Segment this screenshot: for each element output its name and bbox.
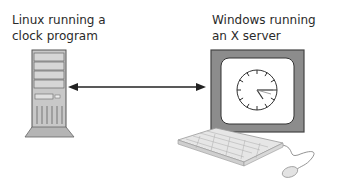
keyboard-icon xyxy=(178,128,283,166)
connection-arrow xyxy=(68,83,206,91)
tower-computer-icon xyxy=(25,50,74,137)
monitor-icon xyxy=(211,50,304,132)
mouse-icon xyxy=(281,145,314,179)
clock-icon xyxy=(237,70,277,110)
diagram-canvas xyxy=(0,0,344,183)
